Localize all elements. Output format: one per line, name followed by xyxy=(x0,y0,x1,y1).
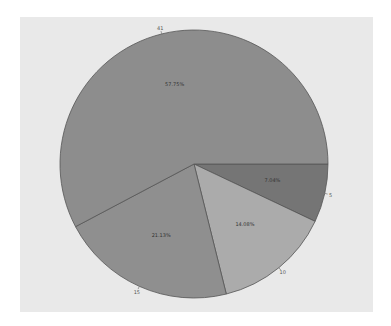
pie-chart: 7.04%514.08%1021.13%1557.75%41 xyxy=(0,0,391,326)
slice-percent-label: 21.13% xyxy=(152,232,171,238)
slice-percent-label: 57.75% xyxy=(165,81,184,87)
slice-category-label: 15 xyxy=(134,289,140,295)
slice-label-tick xyxy=(325,193,328,194)
slice-category-label: 5 xyxy=(329,192,332,198)
slice-label-tick xyxy=(161,31,162,34)
slice-percent-label: 7.04% xyxy=(264,177,280,183)
slice-percent-label: 14.08% xyxy=(235,221,254,227)
slice-category-label: 10 xyxy=(279,269,285,275)
slice-category-label: 41 xyxy=(157,25,163,31)
